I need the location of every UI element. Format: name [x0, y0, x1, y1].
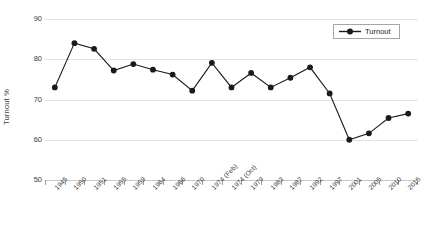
- data-point: [327, 91, 333, 97]
- plot-area: [45, 19, 418, 180]
- y-tick-label-50: 50: [18, 175, 42, 184]
- data-point: [150, 67, 156, 73]
- x-tick-mark: [45, 180, 46, 185]
- legend: Turnout: [333, 24, 400, 39]
- y-tick-label-80: 80: [18, 54, 42, 63]
- data-point: [111, 68, 117, 74]
- y-axis-tick-labels: 9080706050: [14, 19, 42, 180]
- data-point: [170, 72, 176, 78]
- data-point: [248, 70, 254, 76]
- y-tick-label-70: 70: [18, 95, 42, 104]
- data-point: [209, 60, 215, 66]
- y-tick-label-60: 60: [18, 135, 42, 144]
- data-point: [130, 61, 136, 67]
- data-point: [386, 115, 392, 121]
- data-point: [346, 137, 352, 143]
- series-line-turnout: [55, 43, 408, 140]
- data-point: [52, 85, 58, 91]
- data-point: [91, 46, 97, 52]
- data-point: [405, 111, 411, 117]
- data-point: [366, 130, 372, 136]
- data-point: [189, 88, 195, 94]
- turnout-line-chart: Turnout % 9080706050 1945195019511955195…: [0, 0, 433, 238]
- data-point: [287, 75, 293, 81]
- y-axis-title: Turnout %: [2, 72, 11, 142]
- legend-marker-icon: [339, 27, 361, 36]
- data-point: [307, 64, 313, 70]
- data-point: [229, 85, 235, 91]
- data-series-turnout: [45, 19, 418, 180]
- data-point: [72, 40, 78, 46]
- data-point: [268, 85, 274, 91]
- legend-label-turnout: Turnout: [365, 27, 391, 36]
- y-tick-label-90: 90: [18, 14, 42, 23]
- x-axis-tick-labels: 194519501951195519591964196619701974 (Fe…: [45, 186, 418, 238]
